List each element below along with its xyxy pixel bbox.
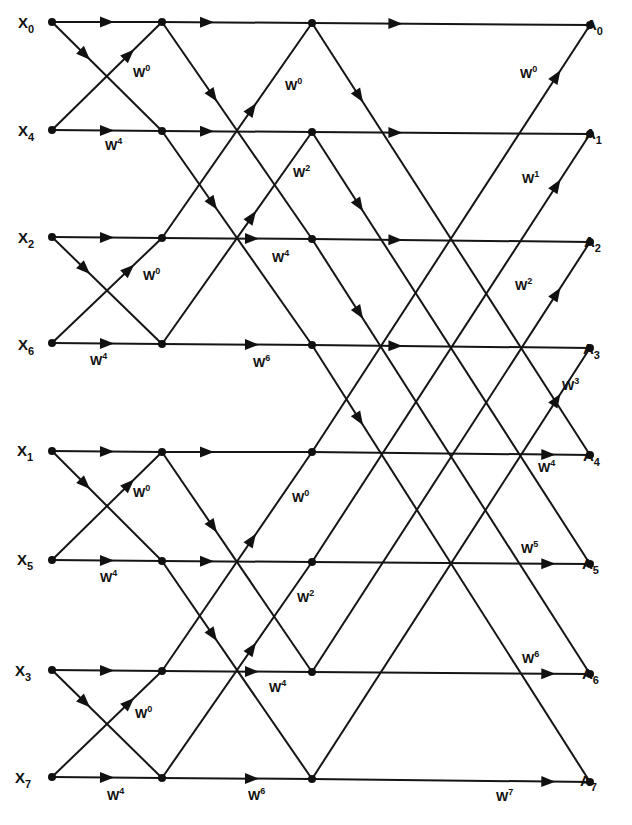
flow-edge [162, 344, 312, 345]
twiddle-label: W4 [269, 678, 286, 695]
input-node [48, 339, 56, 347]
input-label-2: X2 [18, 229, 34, 250]
arrowhead-icon [200, 17, 214, 28]
output-label-3: A3 [583, 340, 600, 361]
twiddle-label: W2 [515, 276, 532, 293]
twiddle-label: W0 [143, 266, 160, 283]
output-label-4: A4 [583, 447, 601, 468]
input-label-0: X0 [18, 14, 34, 35]
twiddle-label: W6 [248, 786, 265, 803]
arrowhead-icon [548, 67, 565, 85]
twiddle-label: W4 [105, 136, 122, 153]
arrowhead-icon [200, 447, 214, 458]
arrowhead-icon [100, 555, 114, 566]
intermediate-node [158, 557, 166, 565]
twiddle-label: W3 [562, 376, 579, 393]
input-label-7: X7 [15, 769, 31, 790]
flow-edge [312, 23, 590, 25]
intermediate-node [158, 234, 166, 242]
twiddle-label: W0 [133, 483, 150, 500]
flow-edge [162, 22, 312, 23]
input-node [48, 126, 56, 134]
flow-edge [162, 778, 312, 779]
twiddle-label: W1 [522, 169, 539, 186]
intermediate-node [158, 340, 166, 348]
output-label-1: A1 [585, 125, 602, 146]
arrowhead-icon [548, 285, 565, 303]
flow-edge [162, 131, 312, 132]
arrowhead-icon [205, 518, 222, 536]
twiddle-label: W0 [292, 488, 309, 505]
arrowhead-icon [245, 773, 259, 784]
arrowhead-icon [548, 176, 565, 194]
intermediate-node [158, 127, 166, 135]
arrowhead-icon [100, 125, 114, 136]
arrowhead-icon [200, 556, 214, 567]
arrowhead-icon [245, 339, 259, 350]
twiddle-label: W6 [522, 649, 539, 666]
arrowhead-icon [541, 558, 555, 569]
arrowhead-icon [388, 340, 402, 351]
twiddle-label: W2 [293, 163, 310, 180]
arrowhead-icon [351, 410, 368, 428]
arrowhead-icon [200, 126, 214, 137]
intermediate-node [158, 18, 166, 26]
input-label-5: X5 [17, 551, 33, 572]
intermediate-node [308, 128, 316, 136]
arrowhead-icon [351, 197, 368, 215]
arrowhead-icon [204, 87, 221, 105]
intermediate-node [308, 558, 316, 566]
arrowhead-icon [245, 666, 259, 677]
output-label-7: A7 [580, 772, 597, 793]
flow-edge [162, 561, 312, 562]
input-label-3: X6 [18, 336, 34, 357]
input-node [48, 18, 56, 26]
twiddle-label: W4 [107, 786, 124, 803]
intermediate-node [308, 341, 316, 349]
output-label-0: A0 [586, 16, 603, 37]
twiddle-label: W7 [496, 787, 513, 804]
input-node [48, 666, 56, 674]
twiddle-label: W0 [135, 704, 152, 721]
twiddle-label: W2 [297, 588, 314, 605]
intermediate-node [158, 667, 166, 675]
fft-flow-graph: X0 X4 X2 X6 X1 X5 X3 X7 A0 A1 A2 A3 A4 A… [0, 0, 632, 825]
arrowhead-icon [100, 232, 114, 243]
intermediate-node [308, 448, 316, 456]
arrowhead-icon [100, 665, 114, 676]
arrowhead-icon [541, 776, 555, 787]
stage-2-twiddles: W0 W2 W4 W6 W0 W2 W4 W6 [248, 76, 314, 803]
arrowhead-icon [100, 446, 114, 457]
input-label-6: X3 [15, 662, 31, 683]
flow-edges [52, 22, 590, 782]
arrowhead-icon [351, 304, 368, 322]
arrowhead-icon [204, 195, 221, 213]
arrowhead-icon [243, 100, 260, 118]
twiddle-label: W4 [538, 458, 555, 475]
intermediate-node [308, 775, 316, 783]
input-node [48, 233, 56, 241]
arrowhead-icon [388, 127, 402, 138]
output-labels: A0 A1 A2 A3 A4 A5 A6 A7 [580, 16, 603, 793]
twiddle-label: W4 [90, 351, 107, 368]
arrowhead-icon [245, 233, 259, 244]
intermediate-node [158, 448, 166, 456]
intermediate-node [158, 774, 166, 782]
input-node [48, 773, 56, 781]
arrowhead-icon [100, 17, 114, 28]
arrowhead-icon [243, 640, 260, 658]
twiddle-label: W4 [100, 568, 117, 585]
twiddle-label: W0 [285, 76, 302, 93]
input-node [48, 556, 56, 564]
arrowhead-icon [244, 531, 261, 549]
arrowhead-icon [243, 208, 260, 226]
arrowhead-icon [205, 626, 222, 644]
output-label-6: A6 [582, 665, 599, 686]
input-labels: X0 X4 X2 X6 X1 X5 X3 X7 [15, 14, 35, 790]
arrowhead-icon [351, 88, 368, 106]
arrowhead-icon [541, 668, 555, 679]
input-label-1: X4 [18, 122, 35, 143]
output-label-5: A5 [582, 555, 599, 576]
twiddle-label: W0 [520, 64, 537, 81]
twiddle-label: W5 [521, 539, 538, 556]
